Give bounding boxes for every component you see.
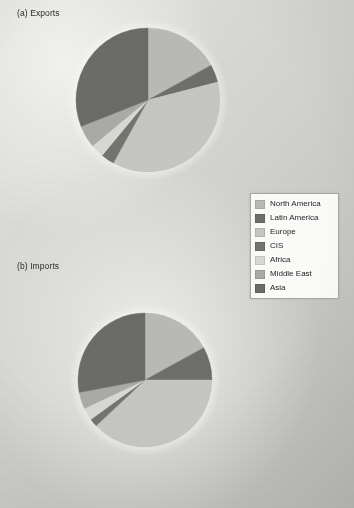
legend-item-label: Europe [270,225,296,239]
figure-canvas: (a) Exports (b) Imports North AmericaLat… [0,0,354,508]
pie-chart-exports [66,18,230,182]
legend-item-label: Asia [270,281,286,295]
panel-title-exports: (a) Exports [17,8,60,18]
legend-swatch-icon [255,242,265,251]
legend-item: Europe [255,225,335,239]
legend-swatch-icon [255,256,265,265]
legend-item: Middle East [255,267,335,281]
legend-swatch-icon [255,270,265,279]
legend-item-label: CIS [270,239,283,253]
legend-item-label: Africa [270,253,290,267]
legend-item: Asia [255,281,335,295]
pie-imports-svg [68,303,222,457]
legend-swatch-icon [255,214,265,223]
pie-slice-asia [78,313,145,393]
legend-item: Latin America [255,211,335,225]
legend-item-label: Latin America [270,211,318,225]
legend-item: Africa [255,253,335,267]
legend-item: CIS [255,239,335,253]
legend-item: North America [255,197,335,211]
legend-swatch-icon [255,284,265,293]
legend-item-label: Middle East [270,267,312,281]
panel-title-imports: (b) Imports [17,261,59,271]
legend-swatch-icon [255,228,265,237]
pie-exports-svg [66,18,230,182]
legend: North AmericaLatin AmericaEuropeCISAfric… [250,193,339,299]
pie-chart-imports [68,303,222,457]
legend-swatch-icon [255,200,265,209]
legend-item-label: North America [270,197,321,211]
